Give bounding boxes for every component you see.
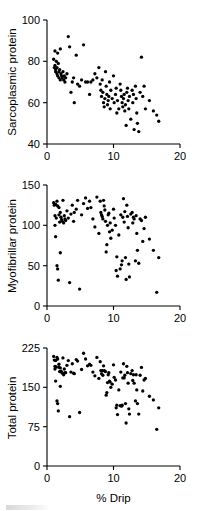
- data-point: [111, 97, 114, 100]
- data-point: [109, 221, 112, 224]
- data-point: [86, 207, 89, 210]
- data-point: [103, 105, 106, 108]
- data-point: [105, 84, 108, 87]
- data-point: [73, 211, 76, 214]
- data-point: [114, 378, 117, 381]
- data-point: [137, 412, 140, 415]
- data-point: [56, 357, 59, 360]
- data-point: [68, 281, 71, 284]
- data-point: [134, 214, 137, 217]
- y-ticklabel: 100: [22, 14, 40, 26]
- data-point: [132, 381, 135, 384]
- data-point: [122, 197, 125, 200]
- data-point: [132, 93, 135, 96]
- data-point: [107, 99, 110, 102]
- data-point: [107, 212, 110, 215]
- data-point: [68, 415, 71, 418]
- data-point: [80, 368, 83, 371]
- data-point: [57, 62, 60, 65]
- data-point: [136, 402, 139, 405]
- data-point: [126, 87, 129, 90]
- data-point: [91, 370, 94, 373]
- y-ticklabel: 60: [28, 97, 40, 109]
- data-points-total: [52, 352, 160, 431]
- data-point: [112, 74, 115, 77]
- data-point: [152, 109, 155, 112]
- data-point: [132, 128, 135, 131]
- data-point: [102, 101, 105, 104]
- data-point: [124, 421, 127, 424]
- data-point: [56, 51, 59, 54]
- data-point: [54, 379, 57, 382]
- y-ticklabel: 75: [28, 421, 40, 433]
- data-point: [125, 204, 128, 207]
- data-point: [57, 206, 60, 209]
- data-point: [67, 35, 70, 38]
- data-point: [128, 275, 131, 278]
- data-point: [124, 103, 127, 106]
- data-point: [155, 291, 158, 294]
- data-point: [89, 364, 92, 367]
- data-point: [129, 118, 132, 121]
- data-point: [71, 80, 74, 83]
- data-point: [82, 202, 85, 205]
- data-point: [114, 93, 117, 96]
- data-point: [116, 99, 119, 102]
- data-point: [99, 199, 102, 202]
- x-ticklabel: 0: [44, 312, 50, 324]
- data-point: [127, 262, 130, 265]
- data-point: [123, 374, 126, 377]
- data-point: [95, 76, 98, 79]
- y-ticklabel: 0: [34, 300, 40, 312]
- data-point: [108, 80, 111, 83]
- data-point: [140, 219, 143, 222]
- data-point: [57, 363, 60, 366]
- data-point: [157, 256, 160, 259]
- y-axis-title-total: Total protein: [6, 377, 18, 440]
- data-point: [115, 269, 118, 272]
- data-point: [67, 359, 70, 362]
- data-point: [106, 103, 109, 106]
- data-point: [126, 381, 129, 384]
- data-point: [112, 363, 115, 366]
- data-point: [69, 212, 72, 215]
- data-point: [86, 80, 89, 83]
- data-point: [142, 227, 145, 230]
- data-point: [124, 402, 127, 405]
- data-point: [53, 224, 56, 227]
- data-point: [97, 232, 100, 235]
- x-ticklabel: 10: [107, 150, 119, 162]
- data-point: [105, 391, 108, 394]
- data-point: [64, 219, 67, 222]
- y-axis-sarcoplasmic: 100 80 60 40: [22, 14, 47, 150]
- data-point: [80, 78, 83, 81]
- data-point: [75, 208, 78, 211]
- data-point: [97, 377, 100, 380]
- data-point: [130, 211, 133, 214]
- data-point: [97, 66, 100, 69]
- data-point: [105, 250, 108, 253]
- data-point: [121, 105, 124, 108]
- data-point: [124, 256, 127, 259]
- data-point: [152, 398, 155, 401]
- data-point: [130, 89, 133, 92]
- data-point: [155, 113, 158, 116]
- data-point: [115, 404, 118, 407]
- y-axis-title-sarcoplasmic: Sarcoplasmic protein: [6, 28, 18, 135]
- y-ticklabel: 50: [28, 260, 40, 272]
- y-ticklabel: 150: [22, 179, 40, 191]
- x-ticklabel: 0: [44, 472, 50, 484]
- data-point: [103, 204, 106, 207]
- data-point: [55, 264, 58, 267]
- scatter-plot-myofibrillar: 150 100 50 0 0 10 20 Myofibrillar protei…: [0, 170, 198, 330]
- data-point: [142, 84, 145, 87]
- data-points-sarcoplasmic: [52, 35, 160, 133]
- data-point: [101, 91, 104, 94]
- data-point: [144, 377, 147, 380]
- data-point: [124, 278, 127, 281]
- data-point: [148, 237, 151, 240]
- data-point: [104, 70, 107, 73]
- data-point: [128, 95, 131, 98]
- y-ticklabel: 150: [22, 381, 40, 393]
- x-ticklabel: 10: [107, 312, 119, 324]
